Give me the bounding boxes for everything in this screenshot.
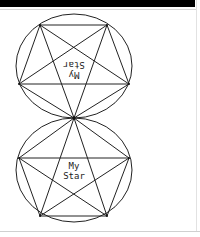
lower-label-line1: My	[69, 161, 80, 171]
upper-star-label: My Star	[63, 60, 85, 80]
upper-label-line1: My	[68, 70, 79, 80]
drawing-canvas: My Star My Star	[0, 0, 200, 237]
lower-label-line2: Star	[63, 171, 85, 181]
lower-star-label: My Star	[63, 161, 85, 181]
vertex-dots	[18, 24, 130, 217]
upper-label-line2: Star	[63, 60, 85, 70]
